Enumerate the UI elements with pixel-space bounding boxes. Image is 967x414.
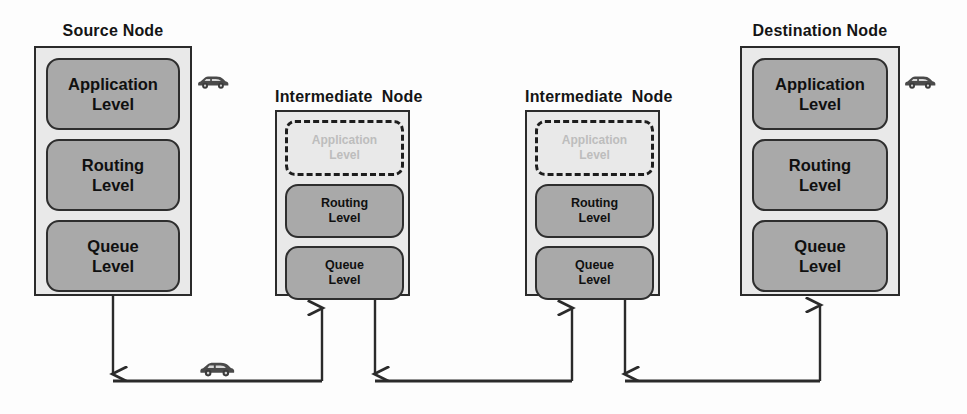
layer-line-1: Queue xyxy=(87,236,138,256)
intermediate-2-routing-level[interactable]: Routing Level xyxy=(535,184,654,238)
layer-line-1: Routing xyxy=(789,155,851,175)
diagram-canvas: Source Node Application Level Routing Le… xyxy=(0,0,967,414)
layer-line-2: Level xyxy=(799,256,841,276)
layer-line-2: Level xyxy=(329,211,361,226)
intermediate-2-node-title: Intermediate Node xyxy=(525,88,660,106)
layer-line-2: Level xyxy=(329,273,361,288)
source-routing-level[interactable]: Routing Level xyxy=(46,139,180,211)
layer-line-2: Level xyxy=(579,211,611,226)
layer-line-2: Level xyxy=(329,148,360,163)
car-icon xyxy=(196,72,230,92)
destination-application-level[interactable]: Application Level xyxy=(752,58,888,130)
intermediate-1-node-title: Intermediate Node xyxy=(275,88,410,106)
layer-line-1: Queue xyxy=(794,236,845,256)
layer-line-1: Routing xyxy=(82,155,144,175)
source-node: Application Level Routing Level Queue Le… xyxy=(34,46,192,296)
car-icon xyxy=(198,358,236,380)
layer-line-2: Level xyxy=(799,175,841,195)
layer-line-1: Application xyxy=(68,74,158,94)
intermediate-1-routing-level[interactable]: Routing Level xyxy=(285,184,404,238)
car-icon xyxy=(903,72,937,92)
layer-line-1: Application xyxy=(312,133,377,148)
layer-line-1: Routing xyxy=(321,196,368,211)
source-node-title: Source Node xyxy=(34,22,192,40)
layer-line-2: Level xyxy=(92,256,134,276)
layer-line-2: Level xyxy=(92,175,134,195)
intermediate-2-queue-level[interactable]: Queue Level xyxy=(535,246,654,300)
layer-line-1: Routing xyxy=(571,196,618,211)
source-application-level[interactable]: Application Level xyxy=(46,58,180,130)
intermediate-2-node: Application Level Routing Level Queue Le… xyxy=(525,110,660,296)
layer-line-1: Queue xyxy=(575,258,614,273)
layer-line-1: Application xyxy=(562,133,627,148)
destination-node-title: Destination Node xyxy=(740,22,900,40)
layer-line-1: Queue xyxy=(325,258,364,273)
layer-line-1: Application xyxy=(775,74,865,94)
destination-queue-level[interactable]: Queue Level xyxy=(752,220,888,292)
intermediate-2-application-level: Application Level xyxy=(535,120,654,176)
intermediate-1-node: Application Level Routing Level Queue Le… xyxy=(275,110,410,296)
source-queue-level[interactable]: Queue Level xyxy=(46,220,180,292)
layer-line-2: Level xyxy=(799,94,841,114)
intermediate-1-queue-level[interactable]: Queue Level xyxy=(285,246,404,300)
destination-routing-level[interactable]: Routing Level xyxy=(752,139,888,211)
layer-line-2: Level xyxy=(92,94,134,114)
link-int1-to-int2 xyxy=(375,296,572,381)
intermediate-1-application-level: Application Level xyxy=(285,120,404,176)
link-int2-to-destination xyxy=(625,296,820,381)
layer-line-2: Level xyxy=(579,273,611,288)
layer-line-2: Level xyxy=(579,148,610,163)
destination-node: Application Level Routing Level Queue Le… xyxy=(740,46,900,296)
